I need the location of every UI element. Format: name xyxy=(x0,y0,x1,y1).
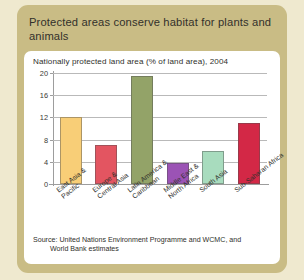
y-tick-label: 12 xyxy=(32,113,48,122)
y-tick-label: 8 xyxy=(32,135,48,144)
y-tick-label: 0 xyxy=(32,180,48,189)
y-tick-mark xyxy=(50,184,53,185)
source-line-1: Source: United Nations Environment Progr… xyxy=(33,236,273,245)
y-tick-label: 4 xyxy=(32,157,48,166)
source-line-2: World Bank estimates xyxy=(33,245,273,254)
y-tick-label: 16 xyxy=(32,91,48,100)
source-note: Source: United Nations Environment Progr… xyxy=(33,236,273,254)
chart-panel: Nationally protected land area (% of lan… xyxy=(24,51,280,264)
infographic-card: Protected areas conserve habitat for pla… xyxy=(17,5,287,273)
page-title: Protected areas conserve habitat for pla… xyxy=(29,15,275,43)
page-root: Protected areas conserve habitat for pla… xyxy=(0,0,304,280)
y-tick-label: 20 xyxy=(32,69,48,78)
chart-subtitle: Nationally protected land area (% of lan… xyxy=(33,57,277,67)
